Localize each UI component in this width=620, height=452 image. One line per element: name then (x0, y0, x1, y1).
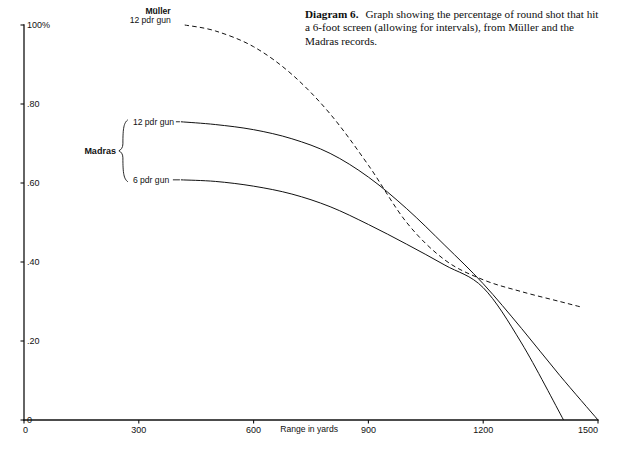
madras-12pdr-label: 12 pdr gun (133, 117, 174, 127)
series-curve-2 (181, 180, 564, 420)
x-tick-label: 600 (246, 425, 261, 435)
y-axis: 0.20.40.60.80100% (21, 20, 51, 425)
series-curve-1 (181, 122, 598, 420)
madras-group-label: Madras (84, 146, 116, 156)
x-axis-title: Range in yards (280, 424, 338, 434)
muller-label-line2: 12 pdr gun (130, 15, 171, 25)
series-curves (181, 25, 598, 420)
figure-caption: Diagram 6.Graph showing the percentage o… (305, 8, 605, 48)
series-curve-0 (185, 25, 583, 307)
x-tick-label: 300 (131, 425, 146, 435)
y-tick-label: .40 (27, 257, 40, 267)
figure-caption-number: Diagram 6. (305, 8, 358, 20)
series-labels: Müller12 pdr gun12 pdr gun6 pdr gunMadra… (84, 6, 180, 185)
x-tick-label: 900 (361, 425, 376, 435)
x-tick-label: 1500 (578, 425, 598, 435)
y-tick-label: .80 (27, 99, 40, 109)
y-tick-label: .60 (27, 178, 40, 188)
x-axis: 030060090012001500Range in yards (23, 420, 598, 435)
y-tick-label: .20 (27, 336, 40, 346)
chart-canvas: 0.20.40.60.80100% 030060090012001500Rang… (0, 0, 620, 452)
madras-6pdr-label: 6 pdr gun (133, 175, 170, 185)
y-tick-label: 100% (27, 20, 50, 30)
x-tick-label: 0 (23, 425, 28, 435)
x-tick-label: 1200 (473, 425, 493, 435)
diagram-figure: Diagram 6.Graph showing the percentage o… (0, 0, 620, 452)
madras-brace (119, 120, 128, 182)
